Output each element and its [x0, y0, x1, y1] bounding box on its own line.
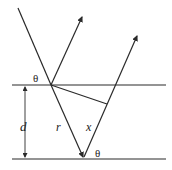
- theta-top-label: θ: [33, 72, 38, 84]
- perpendicular-segment: [51, 85, 107, 104]
- theta-bottom-label: θ: [95, 147, 100, 159]
- path-r-label: r: [56, 120, 61, 134]
- thin-film-diagram: θ θ d r x: [0, 0, 172, 170]
- path-x-label: x: [85, 120, 92, 134]
- thickness-label: d: [20, 119, 27, 134]
- reflected-ray-2: [84, 36, 137, 157]
- reflected-ray-1: [51, 17, 82, 85]
